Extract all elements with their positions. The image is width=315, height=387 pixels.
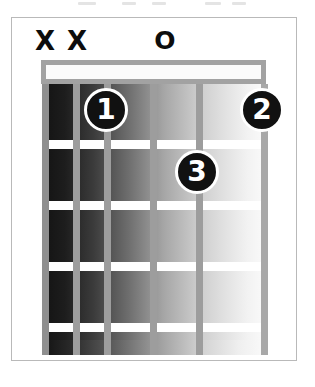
finger-dot-3: 3 [175,150,219,194]
nut [41,60,266,84]
string-marker-4: O [152,26,178,56]
chord-diagram: X X O 1 2 3 [0,0,315,387]
scan-artifact [152,2,166,5]
string-line-5 [196,84,203,355]
string-marker-2: X [64,26,90,56]
finger-dot-1: 1 [84,88,128,132]
scan-artifact [122,2,136,5]
string-line-4 [150,84,157,355]
scan-artifact-row [0,0,315,10]
scan-artifact [205,2,221,5]
string-line-1 [42,84,49,355]
string-marker-row: X X O [0,26,315,56]
scan-artifact [78,2,96,5]
finger-dot-2: 2 [240,88,284,132]
scan-artifact [232,2,246,5]
string-marker-1: X [32,26,58,56]
string-line-2 [73,84,80,355]
